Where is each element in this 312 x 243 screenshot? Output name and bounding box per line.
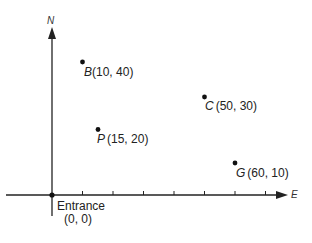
x-axis-label: E xyxy=(291,189,298,200)
coordinate-diagram: N E Entrance (0, 0) B(10, 40) C(50, 30) … xyxy=(0,0,312,243)
point-p-label: P(15, 20) xyxy=(97,132,148,146)
y-axis-label: N xyxy=(47,15,55,26)
point-b xyxy=(80,60,85,65)
point-c-label: C(50, 30) xyxy=(205,99,257,113)
point-g xyxy=(233,161,238,166)
x-axis-arrow-icon xyxy=(276,191,288,199)
point-b-label: B(10, 40) xyxy=(84,65,133,79)
point-g-label: G(60, 10) xyxy=(236,166,289,180)
origin-coords: (0, 0) xyxy=(64,212,92,226)
origin-point xyxy=(49,192,54,197)
y-axis-arrow-icon xyxy=(48,27,56,39)
origin-label: Entrance xyxy=(57,199,105,213)
